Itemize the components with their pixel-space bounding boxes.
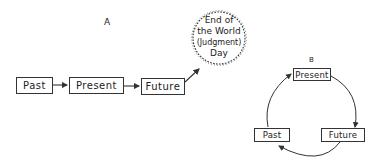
end-of-world-line-3: (Judgment) (192, 37, 246, 48)
node-a-past: Past (16, 77, 53, 94)
diagram-b-label: B (309, 56, 314, 64)
node-a-future: Future (141, 78, 185, 95)
node-b-present: Present (293, 68, 331, 81)
node-a-end-of-world: End of the World (Judgment) Day (192, 15, 246, 59)
arrow-b-future-to-past (279, 142, 340, 156)
arrow-future-to-end (185, 69, 199, 82)
end-of-world-line-4: Day (192, 48, 246, 59)
diagram-canvas: A Past Present Future End of the World (… (0, 0, 379, 165)
node-b-past: Past (254, 128, 290, 142)
node-b-future: Future (321, 128, 365, 142)
arrow-b-present-to-future (331, 76, 356, 127)
node-a-present: Present (69, 77, 124, 94)
diagram-a-label: A (104, 17, 110, 27)
arrow-b-past-to-present (267, 74, 291, 127)
end-of-world-line-2: the World (192, 26, 246, 37)
end-of-world-line-1: End of (192, 15, 246, 26)
